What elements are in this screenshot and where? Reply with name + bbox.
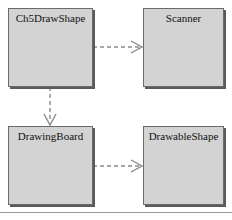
class-box-scanner[interactable]: Scanner bbox=[143, 8, 224, 87]
class-name-label: Scanner bbox=[144, 9, 223, 25]
dependency-drawingboard-to-drawableshape bbox=[93, 160, 142, 172]
class-box-ch5drawshape[interactable]: Ch5DrawShape bbox=[8, 8, 93, 87]
bottom-divider bbox=[0, 212, 232, 213]
class-name-label: DrawingBoard bbox=[9, 127, 92, 143]
class-box-drawingboard[interactable]: DrawingBoard bbox=[8, 126, 93, 205]
arrowhead-open-icon bbox=[131, 41, 142, 53]
uml-class-diagram: Scanner --> DrawingBoard --> DrawableSha… bbox=[0, 0, 232, 220]
dependency-ch5drawshape-to-drawingboard bbox=[44, 87, 56, 125]
arrowhead-open-icon bbox=[131, 160, 142, 172]
class-name-label: Ch5DrawShape bbox=[9, 9, 92, 25]
class-box-drawableshape[interactable]: DrawableShape bbox=[143, 126, 224, 205]
arrowhead-open-icon bbox=[44, 114, 56, 125]
class-name-label: DrawableShape bbox=[144, 127, 223, 143]
dependency-ch5drawshape-to-scanner bbox=[93, 41, 142, 53]
